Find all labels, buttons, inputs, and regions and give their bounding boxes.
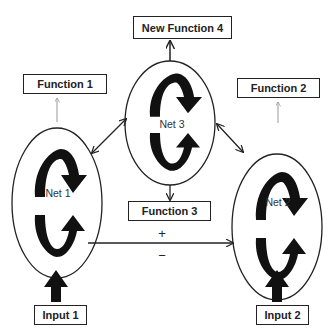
net-2-label: Net 2 bbox=[265, 196, 290, 208]
arrow-net1-net3 bbox=[92, 119, 126, 153]
net-3-label: Net 3 bbox=[159, 118, 184, 130]
function-3-box: Function 3 bbox=[128, 201, 211, 221]
function-2-box: Function 2 bbox=[237, 78, 320, 98]
net-1-label: Net 1 bbox=[45, 187, 70, 199]
arrow-net3-net2 bbox=[217, 124, 243, 152]
net-1-node bbox=[12, 128, 102, 278]
function-1-box: Function 1 bbox=[23, 74, 107, 94]
input-2-box: Input 2 bbox=[256, 305, 309, 325]
network-diagram bbox=[0, 0, 331, 336]
plus-sign: + bbox=[158, 226, 166, 241]
new-function-4-box: New Function 4 bbox=[133, 16, 232, 39]
minus-sign: − bbox=[158, 248, 166, 263]
input-1-box: Input 1 bbox=[34, 305, 87, 325]
